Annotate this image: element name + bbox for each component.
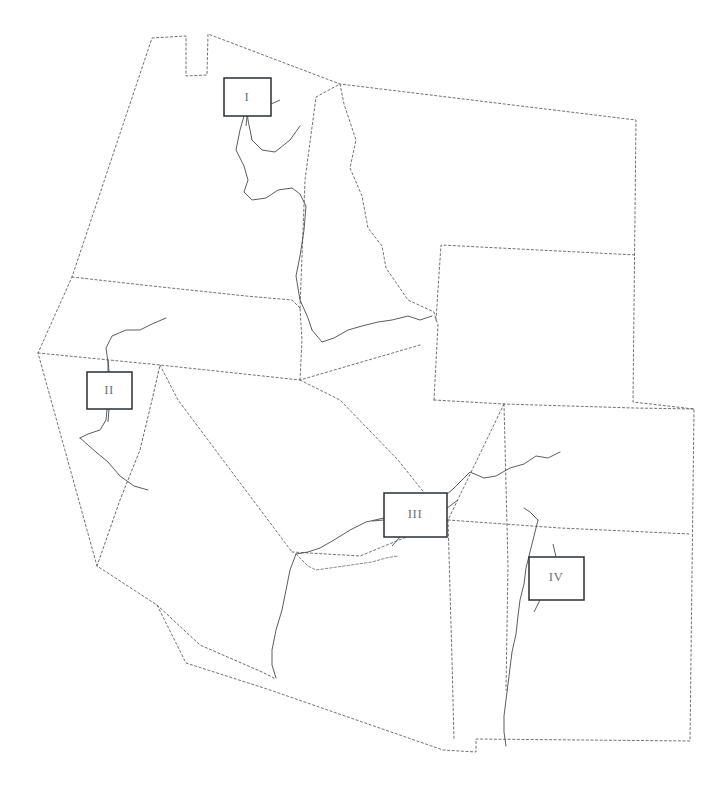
map-canvas: I II III IV: [0, 0, 719, 797]
map-label-2[interactable]: II: [87, 372, 132, 409]
map-label-3[interactable]: III: [384, 493, 447, 537]
map-label-4[interactable]: IV: [529, 557, 584, 600]
map-label-1[interactable]: I: [224, 78, 271, 116]
label-text-4: IV: [549, 569, 564, 584]
label-text-1: I: [245, 89, 250, 104]
western-us-reference-map: I II III IV: [0, 0, 719, 797]
label-text-2: II: [104, 382, 114, 397]
label-text-3: III: [408, 506, 423, 521]
